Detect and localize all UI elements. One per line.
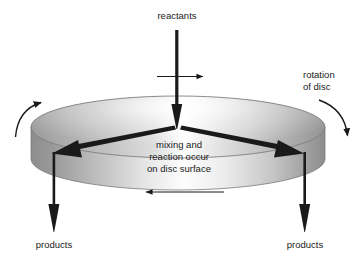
label-rotation-line1: rotation <box>303 69 335 80</box>
label-products-right: products <box>287 239 324 250</box>
diagram-canvas: reactants rotation of disc mixing and re… <box>0 0 360 259</box>
label-rotation-line2: of disc <box>303 81 331 92</box>
label-center-line1: mixing and <box>156 139 202 150</box>
label-reactants: reactants <box>157 10 196 21</box>
label-center-line3: on disc surface <box>147 163 211 174</box>
label-products-left: products <box>36 239 73 250</box>
spinning-disc-diagram: reactants rotation of disc mixing and re… <box>0 0 360 259</box>
label-center-line2: reaction occur <box>149 151 209 162</box>
